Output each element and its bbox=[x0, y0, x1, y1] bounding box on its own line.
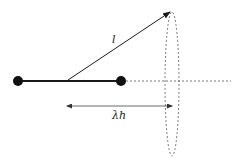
diagram-canvas: l λh bbox=[0, 0, 240, 165]
right-node-dot bbox=[116, 76, 126, 86]
left-node-dot bbox=[13, 76, 23, 86]
vector-l-arrow bbox=[68, 12, 170, 80]
vector-length-label: l bbox=[112, 34, 116, 45]
dashed-ellipse bbox=[165, 12, 179, 156]
diagram-svg bbox=[0, 0, 240, 165]
distance-label: λh bbox=[112, 110, 126, 121]
